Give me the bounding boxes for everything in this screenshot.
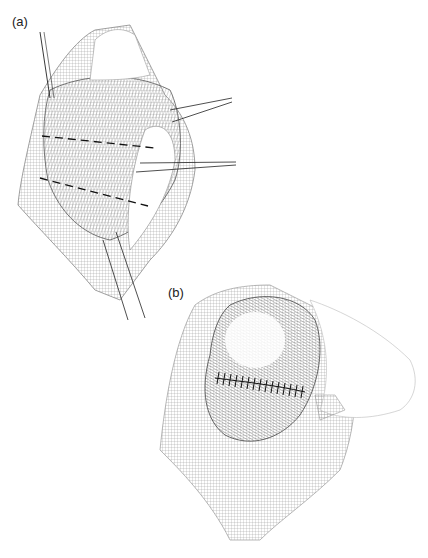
panel-a-drawing (18, 25, 236, 320)
panel-b-drawing (160, 285, 415, 540)
illustration (0, 0, 428, 558)
